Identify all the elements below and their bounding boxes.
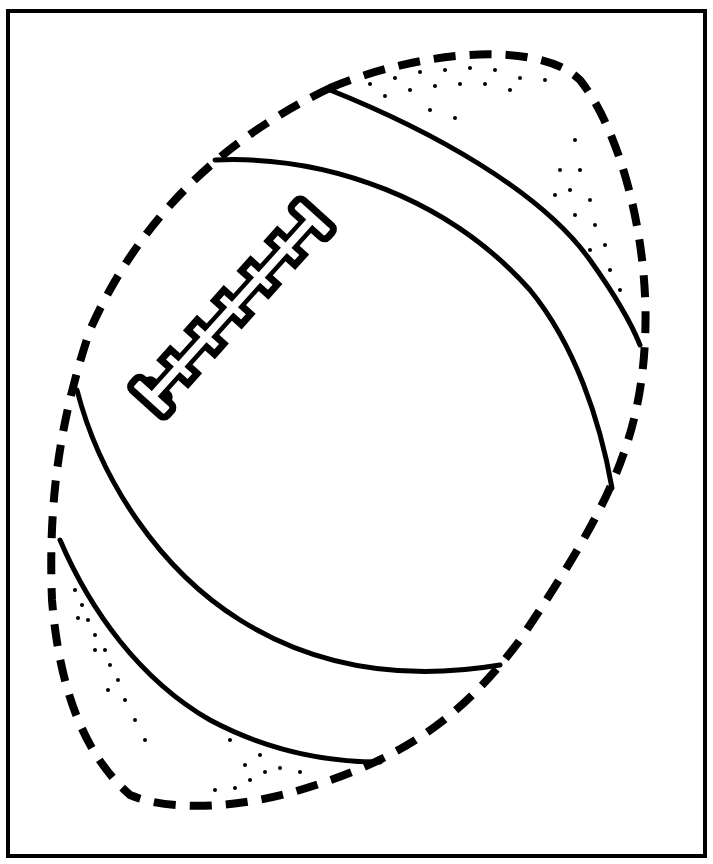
stripe-line-bottom-inner bbox=[77, 390, 500, 671]
stripe-line-top-inner bbox=[215, 160, 612, 488]
stipple-bottom bbox=[73, 588, 302, 792]
football-outline-dashed bbox=[51, 54, 645, 805]
stripe-line-top-outer bbox=[330, 90, 640, 345]
football-laces bbox=[129, 197, 336, 419]
stripe-line-bottom-outer bbox=[60, 540, 380, 762]
coloring-page-canvas bbox=[0, 0, 713, 864]
